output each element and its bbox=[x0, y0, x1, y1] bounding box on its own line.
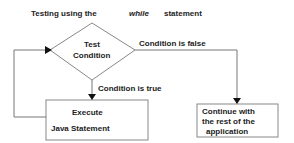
continue-label-line2: the rest of the bbox=[202, 117, 255, 126]
title-suffix: statement bbox=[164, 9, 202, 18]
loop-arrowhead-icon bbox=[45, 46, 52, 54]
execute-label-line2: Java Statement bbox=[51, 124, 110, 133]
title-keyword: while bbox=[129, 9, 149, 18]
decision-label-line1: Test bbox=[84, 40, 100, 49]
decision-label-line2: Condition bbox=[73, 51, 110, 60]
execute-box bbox=[46, 100, 148, 140]
loop-back-connector bbox=[14, 50, 46, 117]
false-edge-label: Condition is false bbox=[139, 39, 206, 48]
continue-label-line1: Continue with bbox=[202, 107, 255, 116]
execute-label-line1: Execute bbox=[72, 108, 103, 117]
false-connector bbox=[135, 50, 237, 103]
true-edge-label: Condition is true bbox=[98, 84, 162, 93]
false-arrowhead-icon bbox=[233, 98, 241, 104]
title-prefix: Testing using the bbox=[31, 9, 97, 18]
continue-label-line3: application bbox=[206, 127, 248, 136]
true-arrowhead-icon bbox=[88, 94, 96, 100]
